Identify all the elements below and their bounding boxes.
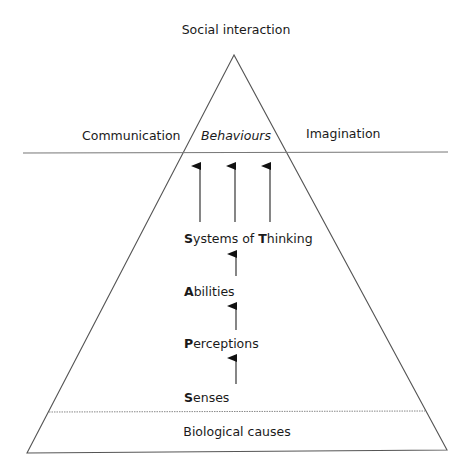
behaviours-label: Behaviours bbox=[201, 130, 271, 143]
communication-label: Communication bbox=[82, 130, 181, 143]
level-senses: Senses bbox=[184, 392, 229, 405]
social-interaction-label: Social interaction bbox=[182, 24, 291, 37]
level-abilities: Abilities bbox=[184, 286, 235, 299]
level-perceptions: Perceptions bbox=[184, 338, 259, 351]
pyramid-triangle bbox=[27, 55, 447, 453]
biological-causes-label: Biological causes bbox=[183, 426, 290, 439]
behaviour-arrows bbox=[200, 166, 270, 222]
base-divider-line bbox=[49, 411, 425, 412]
horizon-line bbox=[23, 152, 448, 153]
imagination-label: Imagination bbox=[306, 128, 380, 141]
level-systems-of-thinking: Systems of Thinking bbox=[184, 233, 313, 246]
